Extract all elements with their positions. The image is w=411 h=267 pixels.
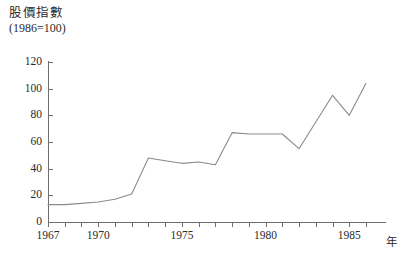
stock-price-index-chart: 股價指數 (1986=100) 020406080100120 19671970…	[0, 0, 411, 267]
data-line-stock-price-index	[48, 83, 366, 204]
series-layer	[0, 0, 411, 267]
